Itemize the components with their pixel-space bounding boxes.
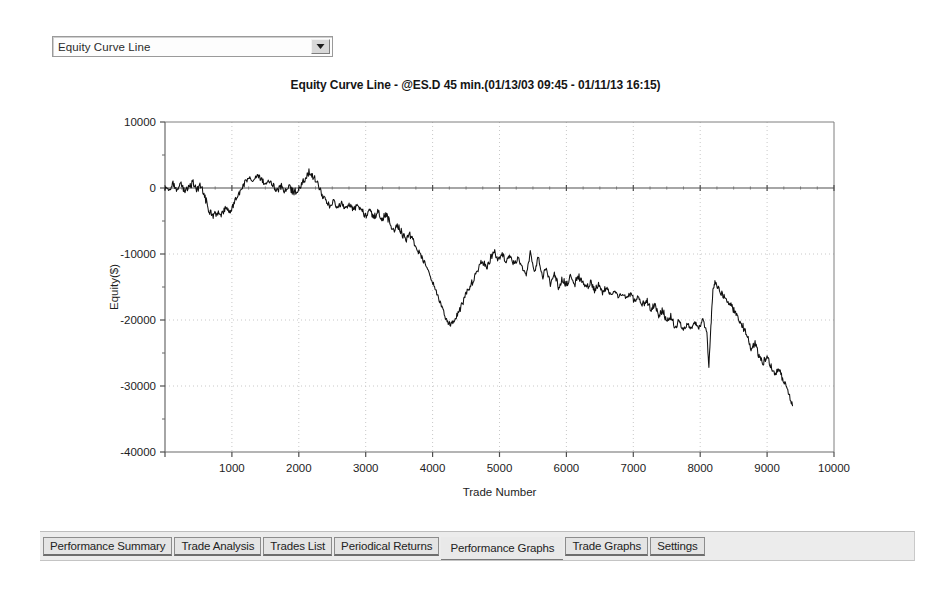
equity-curve-plot: 100000-10000-20000-30000-400001000200030…	[0, 0, 951, 520]
x-axis-tick-label: 1000	[219, 462, 245, 474]
y-axis-tick-label: 10000	[124, 116, 156, 128]
y-axis-tick-label: -10000	[120, 248, 156, 260]
x-axis-tick-label: 10000	[818, 462, 850, 474]
x-axis-tick-label: 3000	[353, 462, 379, 474]
tab-performance-graphs[interactable]: Performance Graphs	[441, 537, 563, 560]
x-axis-tick-label: 6000	[554, 462, 580, 474]
x-axis-tick-label: 9000	[754, 462, 780, 474]
tab-trades-list[interactable]: Trades List	[263, 537, 332, 556]
y-axis-tick-label: 0	[150, 182, 156, 194]
tab-bar: Performance SummaryTrade AnalysisTrades …	[40, 531, 915, 561]
x-axis-tick-label: 5000	[487, 462, 513, 474]
y-axis-tick-label: -30000	[120, 380, 156, 392]
y-axis-tick-label: -40000	[120, 446, 156, 458]
y-axis-tick-label: -20000	[120, 314, 156, 326]
x-axis-tick-label: 4000	[420, 462, 446, 474]
x-axis-tick-label: 2000	[286, 462, 312, 474]
tab-settings[interactable]: Settings	[650, 537, 704, 556]
x-axis-tick-label: 8000	[687, 462, 713, 474]
tab-performance-summary[interactable]: Performance Summary	[43, 537, 172, 556]
tab-trade-analysis[interactable]: Trade Analysis	[174, 537, 261, 556]
tab-periodical-returns[interactable]: Periodical Returns	[334, 537, 439, 556]
x-axis-tick-label: 7000	[621, 462, 647, 474]
x-axis-title: Trade Number	[463, 486, 537, 498]
y-axis-title: Equity($)	[108, 264, 120, 310]
equity-curve-chart: 100000-10000-20000-30000-400001000200030…	[0, 0, 951, 520]
tab-trade-graphs[interactable]: Trade Graphs	[565, 537, 648, 556]
